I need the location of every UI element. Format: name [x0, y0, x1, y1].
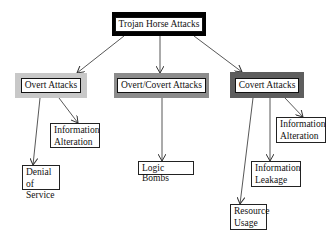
leaf-information-leakage: Information Leakage — [251, 161, 301, 187]
leaf-denial-of-service: Denial of Service — [22, 165, 60, 190]
root-node-label: Trojan Horse Attacks — [115, 17, 204, 32]
leaf-information-alteration-covert: Information Alteration — [276, 117, 326, 143]
leaf-logic-bombs: Logic Bombs — [138, 161, 194, 175]
leaf-line: Service — [26, 190, 57, 202]
category-label: Covert Attacks — [235, 78, 300, 93]
category-label: Overt/Covert Attacks — [117, 78, 206, 93]
leaf-line: Logic Bombs — [142, 163, 191, 183]
leaf-line: Leakage — [255, 175, 298, 187]
edge-root-overt — [77, 36, 124, 73]
trojan-attack-taxonomy-diagram: Trojan Horse Attacks Overt Attacks Overt… — [0, 0, 336, 240]
leaf-line: Resource — [234, 206, 264, 218]
leaf-line: Alteration — [54, 137, 97, 149]
edge-covert-alteration — [285, 98, 303, 117]
leaf-line: Information — [54, 125, 97, 137]
leaf-line: Denial of — [26, 167, 57, 190]
category-covert-attacks: Covert Attacks — [230, 72, 304, 98]
leaf-line: Information — [280, 119, 323, 131]
category-label: Overt Attacks — [21, 78, 82, 93]
category-overt-covert-attacks: Overt/Covert Attacks — [114, 73, 209, 98]
edge-root-covert — [194, 36, 242, 72]
leaf-information-alteration-overt: Information Alteration — [50, 123, 100, 148]
leaf-line: Information — [255, 163, 298, 175]
root-node: Trojan Horse Attacks — [112, 12, 206, 36]
leaf-resource-usage: Resource Usage — [230, 204, 267, 230]
category-overt-attacks: Overt Attacks — [15, 73, 87, 98]
edge-overt-alteration — [59, 98, 78, 123]
leaf-line: Alteration — [280, 131, 323, 143]
edge-overt-denial — [33, 98, 40, 165]
edge-covert-resource — [240, 98, 253, 204]
leaf-line: Usage — [234, 218, 264, 230]
